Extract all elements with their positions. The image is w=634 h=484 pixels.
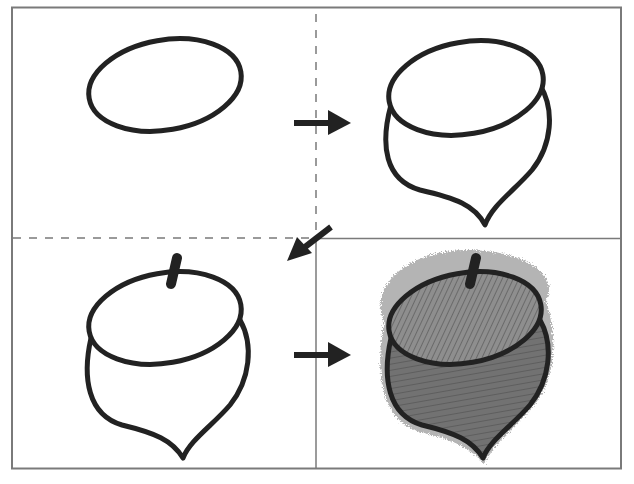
- panel-step-2: Step 2: add the rounded body with a poin…: [381, 29, 551, 225]
- acorn-drawing-steps-diagram: Step 1: draw an oval Step 2: add the rou…: [0, 0, 634, 484]
- acorn-stem: [470, 258, 476, 284]
- acorn-stem: [171, 258, 177, 284]
- panel-step-3: Step 3: add the stem on top: [81, 258, 248, 458]
- arrow-right-icon: [294, 342, 351, 367]
- acorn-cap-outline: [381, 29, 551, 147]
- panel-step-1: Step 1: draw an oval: [81, 27, 248, 142]
- arrow-right-icon: [294, 110, 351, 135]
- panel-step-4: Step 4: shade the cap and body: [380, 250, 553, 464]
- arrow-down-left-icon: [287, 227, 331, 261]
- acorn-cap-oval: [81, 27, 248, 142]
- acorn-cap-outline: [81, 260, 248, 375]
